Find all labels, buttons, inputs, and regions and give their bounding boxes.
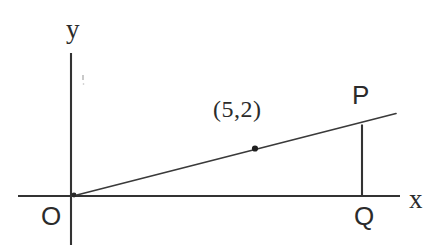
y-axis-label: y	[66, 16, 80, 43]
x-axis-label: x	[409, 186, 423, 213]
small-tick-icon	[83, 75, 85, 85]
ray-op-line	[71, 114, 396, 197]
origin-marker-icon	[72, 193, 77, 198]
diagram-canvas: y x O P Q (5,2)	[0, 0, 443, 251]
dot-marker-icon	[252, 145, 258, 151]
point-coordinate-label: (5,2)	[213, 97, 261, 121]
origin-label: O	[41, 203, 61, 229]
point-q-label: Q	[354, 203, 374, 229]
point-p-label: P	[352, 82, 369, 108]
